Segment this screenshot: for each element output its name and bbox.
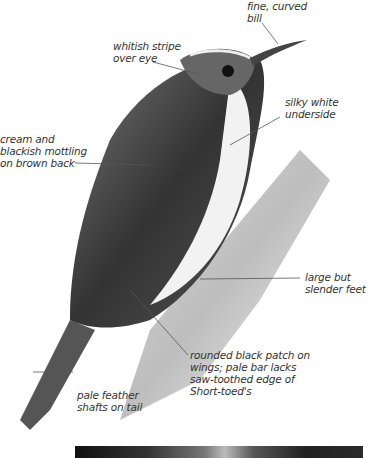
bird-illustration xyxy=(0,0,369,458)
bill xyxy=(250,40,307,66)
photo-strip xyxy=(75,446,363,458)
label-back: cream and blackish mottling on brown bac… xyxy=(0,133,87,169)
label-tail: pale feather shafts on tail xyxy=(77,389,142,413)
label-feet: large but slender feet xyxy=(305,271,366,295)
label-wing-patch: rounded black patch on wings; pale bar l… xyxy=(190,349,310,397)
label-eye-stripe: whitish stripe over eye xyxy=(113,40,181,64)
eye xyxy=(222,65,234,77)
label-bill: fine, curved bill xyxy=(247,0,307,24)
label-underside: silky white underside xyxy=(285,96,338,120)
tail xyxy=(20,320,95,430)
